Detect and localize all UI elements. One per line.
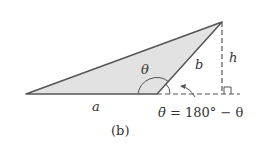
supplementary-angle-equation: θ̄ = 180° − θ bbox=[158, 106, 243, 119]
right-angle-marker bbox=[224, 87, 231, 94]
theta-label: θ bbox=[141, 63, 149, 76]
side-a-label: a bbox=[92, 100, 100, 113]
theta-bar-symbol: θ̄ bbox=[158, 105, 166, 120]
arrow-head-icon bbox=[180, 84, 186, 89]
supplementary-angle-arc bbox=[166, 84, 170, 94]
obtuse-triangle bbox=[26, 22, 222, 94]
height-h-label: h bbox=[229, 51, 237, 64]
side-b-label: b bbox=[195, 58, 203, 71]
equation-rhs: = 180° − θ bbox=[166, 105, 243, 120]
figure-caption: (b) bbox=[111, 124, 129, 137]
